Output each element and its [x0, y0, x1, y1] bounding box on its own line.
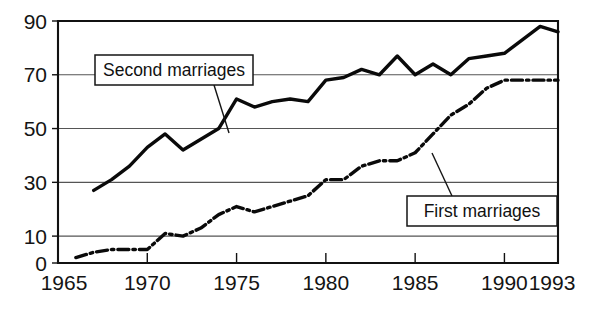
x-tick-label-1990: 1990: [481, 271, 528, 294]
x-tick-label-1993: 1993: [529, 271, 576, 294]
y-tick-label-50: 50: [24, 117, 47, 140]
x-tick-marks-group: [147, 253, 504, 263]
y-tick-labels-group: 01030507090: [24, 10, 47, 275]
y-tick-label-10: 10: [24, 225, 47, 248]
x-tick-label-1980: 1980: [302, 271, 349, 294]
line-chart-canvas: 01030507090 1965197019751980198519901993…: [0, 0, 609, 309]
series-line-second-marriages: [94, 26, 558, 190]
y-tick-label-90: 90: [24, 10, 47, 33]
x-tick-label-1965: 1965: [41, 271, 88, 294]
second-marriages-callout: Second marriages: [95, 55, 253, 133]
x-tick-labels-group: 1965197019751980198519901993: [41, 271, 576, 294]
y-tick-label-70: 70: [24, 63, 47, 86]
chart-figure: 01030507090 1965197019751980198519901993…: [0, 0, 609, 309]
series-line-first-marriages: [76, 80, 558, 257]
x-tick-label-1985: 1985: [392, 271, 439, 294]
x-tick-label-1970: 1970: [124, 271, 171, 294]
x-tick-label-1975: 1975: [213, 271, 260, 294]
first-marriages-callout: First marriages: [407, 153, 557, 226]
second-marriages-callout-text: Second marriages: [103, 60, 245, 80]
first-marriages-callout-text: First marriages: [424, 201, 541, 221]
y-tick-label-30: 30: [24, 171, 47, 194]
first-marriages-callout-leader: [432, 153, 452, 196]
